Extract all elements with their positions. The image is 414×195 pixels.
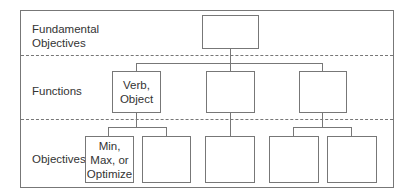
level-label-fundamental-objectives: Fundamental Objectives (32, 22, 99, 50)
function-box (299, 71, 347, 113)
objective-box: Min, Max, or Optimize (85, 136, 134, 183)
connector-line (136, 63, 137, 71)
connector-line (166, 127, 167, 136)
connector-line (230, 48, 231, 63)
connector-line (293, 127, 352, 128)
connector-line (230, 112, 231, 136)
connector-line (108, 127, 109, 136)
objective-box (142, 136, 191, 183)
level-separator-1 (21, 55, 393, 56)
objective-box (205, 136, 255, 183)
function-box: Verb, Object (112, 71, 161, 113)
connector-line (322, 63, 323, 71)
level-label-functions: Functions (32, 84, 82, 98)
connector-line (351, 127, 352, 136)
connector-line (108, 127, 167, 128)
level-separator-2 (21, 119, 393, 120)
connector-line (136, 112, 137, 127)
connector-line (293, 127, 294, 136)
function-box (206, 71, 255, 113)
objective-box (327, 136, 377, 183)
level-label-objectives: Objectives (32, 152, 86, 166)
connector-line (322, 112, 323, 127)
objective-box (269, 136, 319, 183)
fundamental-objective-box (202, 15, 259, 49)
connector-line (230, 63, 231, 71)
